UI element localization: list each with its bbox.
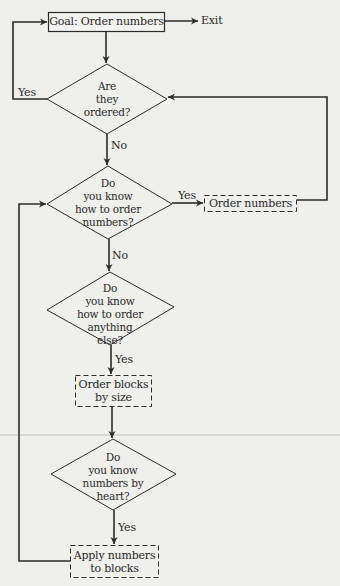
edge-label-no-q-ordered: No: [111, 139, 127, 152]
order-blocks-line-2: by size: [75, 391, 152, 404]
edge-apply-q-know-order-numbers: [19, 204, 70, 561]
flowchart: Goal: Order numbers Exit Are they ordere…: [0, 0, 340, 586]
q-know-by-heart-line-4: heart?: [73, 490, 153, 503]
apply-numbers-line-2: to blocks: [70, 562, 159, 575]
edge-label-yes-q-ordered: Yes: [18, 86, 36, 99]
flowchart-canvas: [0, 0, 340, 586]
q-know-by-heart-line-3: numbers by: [68, 477, 158, 490]
q-ordered-line-1: Are: [77, 80, 137, 93]
q-know-order-else-line-1: Do: [70, 282, 150, 295]
edge-order-numbers-q-ordered: [168, 97, 327, 200]
exit-label: Exit: [201, 14, 222, 27]
q-ordered-line-2: they: [77, 93, 137, 106]
order-blocks-line-1: Order blocks: [75, 378, 152, 391]
order-numbers-label: Order numbers: [204, 197, 297, 210]
edge-label-yes-know-order-else: Yes: [115, 353, 133, 366]
edge-label-yes-know-by-heart: Yes: [118, 521, 136, 534]
q-know-order-numbers-line-3: how to order: [63, 203, 153, 216]
q-know-order-numbers-line-1: Do: [68, 177, 148, 190]
q-know-order-else-line-3: how to order: [65, 308, 155, 321]
q-know-order-else-line-5: else?: [70, 334, 150, 347]
q-know-order-numbers-line-4: numbers?: [68, 216, 148, 229]
q-know-order-else-line-2: you know: [70, 295, 150, 308]
q-know-order-else-line-4: anything: [70, 321, 150, 334]
edge-label-yes-know-order-numbers: Yes: [178, 189, 196, 202]
q-know-by-heart-line-2: you know: [73, 464, 153, 477]
q-ordered-line-3: ordered?: [72, 106, 142, 119]
goal-label: Goal: Order numbers: [48, 15, 165, 28]
edge-label-no-know-order-numbers: No: [112, 249, 128, 262]
apply-numbers-line-1: Apply numbers: [70, 549, 159, 562]
q-know-by-heart-line-1: Do: [73, 451, 153, 464]
q-know-order-numbers-line-2: you know: [68, 190, 148, 203]
